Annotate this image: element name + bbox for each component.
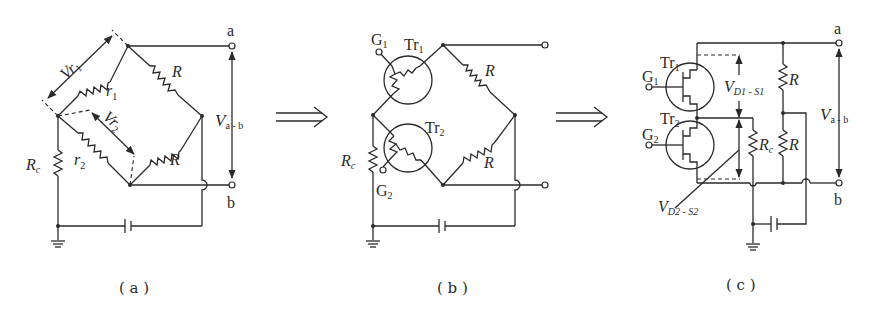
ground-icon	[366, 241, 380, 247]
resistor-R-upper-b	[443, 45, 515, 115]
label-vr2: Vr2	[99, 108, 126, 135]
terminal-a	[229, 43, 235, 49]
label-a-c: a	[834, 20, 841, 37]
panel-c: a b Va - b Tr1 G1 Tr2 G2 VD1 - S1 VD2 - …	[642, 20, 848, 294]
label-Rc-b: Rc	[340, 152, 356, 171]
transition-arrow-2	[556, 107, 607, 127]
resistor-R-upper-c	[779, 43, 787, 113]
label-v-ab-c: Va - b	[820, 105, 848, 125]
label-R-upper-b: R	[484, 62, 495, 79]
label-R-upper-a: R	[171, 63, 182, 80]
transistor-Tr2-c	[651, 118, 714, 183]
label-R-lower-a: R	[169, 151, 180, 168]
label-R-upper-c: R	[788, 71, 799, 88]
label-r2: r2	[74, 151, 85, 171]
resistor-R-upper-a	[128, 46, 202, 116]
panel-b: G1 Tr1 Tr2 G2 Rc R R ( b )	[340, 31, 548, 297]
resistor-R-lower-a	[130, 116, 202, 185]
label-a: a	[227, 22, 234, 39]
label-R-lower-b: R	[483, 154, 494, 171]
label-r1: r1	[106, 82, 117, 102]
label-R-lower-c: R	[788, 136, 799, 153]
ground-icon	[51, 241, 65, 247]
circuit-figure: a b Va - b r1 r2 R R Rc Vr1 Vr2 ( a )	[0, 0, 882, 311]
panel-a: a b Va - b r1 r2 R R Rc Vr1 Vr2 ( a )	[25, 22, 243, 297]
terminal-b	[229, 182, 235, 188]
label-Rc-c: Rc	[758, 136, 774, 155]
label-Tr2-c: Tr2	[660, 110, 680, 129]
transition-arrow-1	[276, 107, 327, 127]
resistor-Rc-a	[54, 116, 62, 240]
caption-a: ( a )	[119, 279, 149, 297]
label-G1-b: G1	[371, 31, 388, 50]
resistor-R-lower-b	[443, 115, 515, 185]
resistor-Rc-c	[749, 118, 757, 178]
label-b: b	[227, 194, 235, 211]
label-vr1: Vr1	[57, 56, 84, 83]
label-b-c: b	[834, 191, 842, 208]
label-Tr1-c: Tr1	[660, 54, 680, 73]
caption-b: ( b )	[437, 279, 468, 297]
resistor-Rc-b	[369, 115, 377, 240]
caption-c: ( c )	[726, 276, 756, 294]
label-Rc-a: Rc	[25, 156, 41, 175]
label-Tr1-b: Tr1	[404, 36, 424, 55]
resistor-R-lower-c	[779, 113, 787, 183]
label-vds1: VD1 - S1	[724, 78, 764, 97]
ground-icon	[746, 244, 760, 250]
label-G1-c: G1	[642, 68, 659, 87]
label-v-ab: Va - b	[215, 111, 243, 131]
label-vds2: VD2 - S2	[658, 198, 698, 217]
label-Tr2-b: Tr2	[425, 119, 445, 138]
label-G2-b: G2	[376, 182, 393, 201]
label-G2-c: G2	[642, 126, 659, 145]
transistor-Tr1-b	[373, 45, 443, 115]
